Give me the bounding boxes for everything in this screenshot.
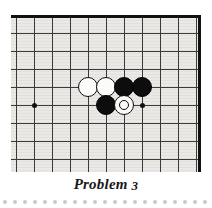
star-point-left xyxy=(32,103,37,108)
decorative-dot xyxy=(43,200,47,204)
white-stone-marked[interactable] xyxy=(114,95,134,115)
decorative-dot xyxy=(23,200,27,204)
grid-line-vertical xyxy=(178,15,179,172)
decorative-dot xyxy=(113,200,117,204)
black-stone-c[interactable] xyxy=(96,95,116,115)
grid-line-horizontal xyxy=(11,123,201,124)
grid-line-vertical xyxy=(34,15,35,172)
grid-line-horizontal xyxy=(11,159,201,160)
grid-line-vertical xyxy=(52,15,53,172)
black-stone-b[interactable] xyxy=(132,77,152,97)
white-stone-b[interactable] xyxy=(96,77,116,97)
decorative-dot xyxy=(63,200,67,204)
decorative-dot xyxy=(53,200,57,204)
decorative-dot xyxy=(93,200,97,204)
board-edge-right xyxy=(198,15,201,172)
caption-label: Problem xyxy=(74,176,128,192)
decorative-dot xyxy=(143,200,147,204)
stone-marker-ring xyxy=(119,100,129,110)
decorative-dot xyxy=(163,200,167,204)
decorative-dot-rule xyxy=(0,199,212,207)
grid-line-vertical xyxy=(160,15,161,172)
go-board[interactable] xyxy=(11,15,201,172)
decorative-dot xyxy=(193,200,197,204)
grid-line-horizontal xyxy=(11,69,201,70)
caption-number: 3 xyxy=(132,178,139,193)
problem-diagram-page: Problem 3 xyxy=(0,0,212,208)
decorative-dot xyxy=(203,200,207,204)
star-point-right xyxy=(140,103,145,108)
decorative-dot xyxy=(133,200,137,204)
grid-line-horizontal xyxy=(11,141,201,142)
problem-caption: Problem 3 xyxy=(0,176,212,193)
decorative-dot xyxy=(13,200,17,204)
decorative-dot xyxy=(83,200,87,204)
white-stone-a[interactable] xyxy=(78,77,98,97)
black-stone-a[interactable] xyxy=(114,77,134,97)
grid-line-horizontal xyxy=(11,51,201,52)
grid-line-vertical xyxy=(70,15,71,172)
decorative-dot xyxy=(73,200,77,204)
grid-line-vertical xyxy=(16,15,17,172)
decorative-dot xyxy=(173,200,177,204)
grid-line-horizontal xyxy=(11,33,201,34)
decorative-dot xyxy=(33,200,37,204)
decorative-dot xyxy=(183,200,187,204)
decorative-dot xyxy=(3,200,7,204)
decorative-dot xyxy=(103,200,107,204)
board-edge-top xyxy=(11,15,201,18)
decorative-dot xyxy=(123,200,127,204)
grid-line-vertical xyxy=(196,15,197,172)
decorative-dot xyxy=(153,200,157,204)
